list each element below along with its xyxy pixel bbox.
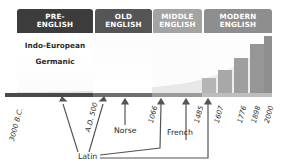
era-label: MODERN ENGLISH [220, 13, 257, 29]
latin-label: Latin [78, 152, 97, 161]
era-header-middle-english: MIDDLE ENGLISH [153, 9, 202, 33]
french-label: French [167, 128, 193, 137]
era-header-old-english: OLD ENGLISH [95, 9, 152, 33]
era-label: MIDDLE ENGLISH [159, 13, 196, 29]
indo-european-label: Indo-European [17, 41, 93, 50]
germanic-label: Germanic [17, 57, 93, 66]
norse-label: Norse [114, 126, 137, 135]
era-label: OLD ENGLISH [105, 13, 142, 29]
era-header-modern-english: MODERN ENGLISH [204, 9, 272, 33]
english-history-diagram: PRE- ENGLISH OLD ENGLISH MIDDLE ENGLISH … [0, 0, 286, 166]
era-label: PRE- ENGLISH [37, 13, 74, 29]
era-header-pre-english: PRE- ENGLISH [17, 9, 93, 33]
